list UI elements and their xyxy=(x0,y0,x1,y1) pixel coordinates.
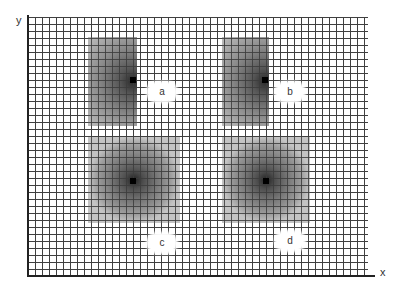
region-c-label: c xyxy=(149,235,175,251)
y-axis-label: y xyxy=(16,14,22,26)
region-d-point xyxy=(263,178,269,184)
region-b-label: b xyxy=(277,84,303,100)
region-a-point xyxy=(130,77,136,83)
region-a-label: a xyxy=(149,84,175,100)
region-c-point xyxy=(130,178,136,184)
y-axis xyxy=(27,15,29,277)
grid-background xyxy=(28,17,368,276)
x-axis xyxy=(27,275,375,277)
region-b-point xyxy=(262,77,268,83)
x-axis-label: x xyxy=(380,266,386,278)
region-d-label: d xyxy=(277,233,303,249)
